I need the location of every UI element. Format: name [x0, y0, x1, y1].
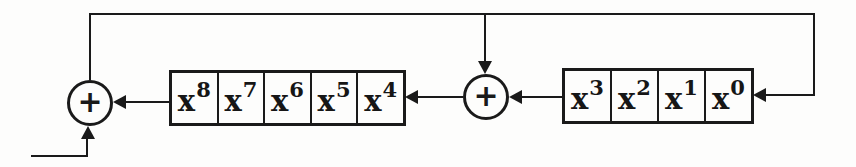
cell-label-exponent: 0 [730, 77, 745, 98]
cell-label-exponent: 4 [383, 79, 398, 100]
plus-symbol: + [473, 81, 498, 111]
cell-label-exponent: 8 [196, 79, 211, 100]
arrowhead-input-into-left-adder [81, 126, 95, 139]
middle-adder-to-x4-line [418, 96, 463, 98]
cell-label-base: x [618, 85, 635, 114]
register-cell-x5: x5 [310, 73, 357, 123]
xor-adder-middle: + [463, 74, 509, 120]
feedback-top-line [89, 13, 815, 15]
cell-label-base: x [712, 85, 729, 114]
register-low: x3 x2 x1 x0 [562, 68, 754, 124]
register-cell-x6: x6 [263, 73, 310, 123]
feedback-into-x0-line [766, 94, 815, 96]
cell-label-base: x [178, 87, 195, 116]
register-cell-x8: x8 [172, 73, 217, 123]
feedback-right-drop [813, 13, 815, 95]
x8-to-left-adder-line [126, 101, 169, 103]
register-cell-x1: x1 [657, 71, 704, 121]
arrowhead-into-x4 [405, 90, 418, 104]
arrowhead-into-left-adder [113, 95, 126, 109]
cell-label-base: x [271, 87, 288, 116]
feedback-middle-tap [484, 13, 486, 61]
xor-adder-left: + [67, 80, 113, 126]
cell-label-exponent: 1 [683, 77, 698, 98]
arrowhead-into-middle-adder [478, 61, 492, 74]
cell-label-exponent: 3 [589, 77, 604, 98]
cell-label-exponent: 5 [336, 79, 351, 100]
x3-to-middle-adder-line [522, 96, 562, 98]
input-line-horizontal [31, 155, 88, 157]
cell-label-base: x [224, 87, 241, 116]
cell-label-exponent: 7 [243, 79, 258, 100]
cell-label-base: x [364, 87, 381, 116]
register-cell-x2: x2 [610, 71, 657, 121]
cell-label-base: x [665, 85, 682, 114]
register-high: x8 x7 x6 x5 x4 [169, 70, 406, 126]
cell-label-exponent: 6 [289, 79, 304, 100]
feedback-left-drop [89, 13, 91, 80]
register-cell-x7: x7 [217, 73, 264, 123]
cell-label-base: x [318, 87, 335, 116]
plus-symbol: + [77, 87, 102, 117]
register-cell-x0: x0 [704, 71, 751, 121]
register-cell-x4: x4 [356, 73, 403, 123]
lfsr-diagram: + x8 x7 x6 x5 x4 + x3 x2 [0, 0, 856, 167]
cell-label-exponent: 2 [636, 77, 651, 98]
input-line-vertical [86, 137, 88, 157]
arrowhead-into-x0 [753, 88, 766, 102]
cell-label-base: x [571, 85, 588, 114]
register-cell-x3: x3 [565, 71, 610, 121]
arrowhead-into-middle-adder-right [509, 90, 522, 104]
